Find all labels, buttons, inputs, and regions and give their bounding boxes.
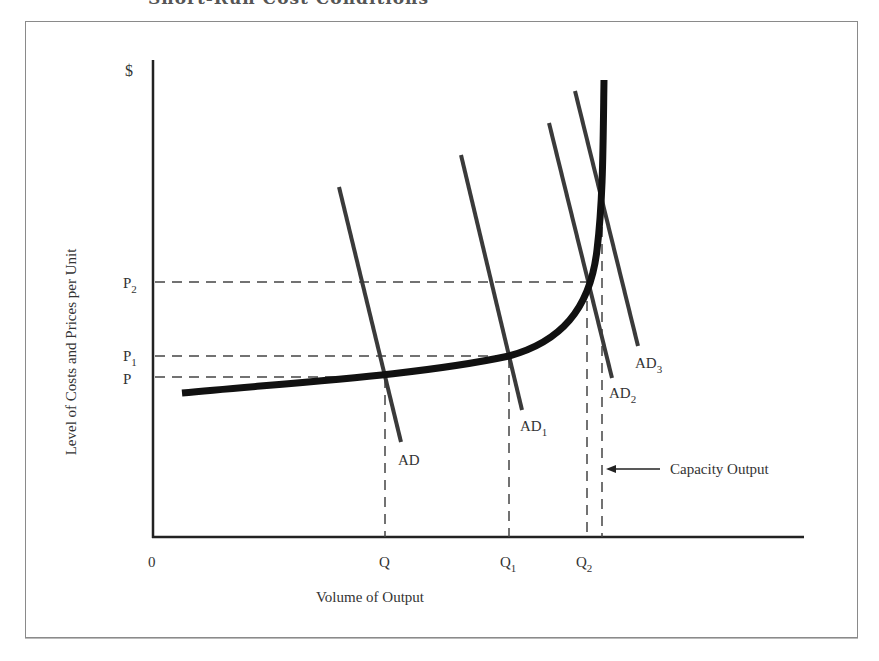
y-axis-label: Level of Costs and Prices per Unit [63, 248, 79, 455]
capacity-arrow [606, 465, 660, 473]
quantity-label-q2: Q2 [576, 554, 592, 574]
ad1-label: AD1 [520, 418, 547, 438]
capacity-output-label: Capacity Output [670, 461, 770, 477]
price-label-p2: P2 [123, 275, 137, 295]
origin-label: 0 [148, 554, 156, 570]
ad-line [339, 187, 401, 442]
quantity-label-q: Q [379, 554, 390, 570]
ad2-label: AD2 [609, 385, 636, 405]
unit-cost-curve [182, 80, 604, 393]
price-label-p1: P1 [123, 348, 137, 368]
y-axis-unit: $ [125, 62, 133, 79]
ad3-label: AD3 [635, 355, 663, 375]
x-axis-label: Volume of Output [316, 589, 425, 605]
quantity-label-q1: Q1 [500, 554, 516, 574]
cost-curve-diagram: Level of Costs and Prices per Unit $ P2 … [0, 0, 879, 661]
ad-label: AD [398, 452, 420, 468]
price-label-p: P [123, 371, 131, 387]
